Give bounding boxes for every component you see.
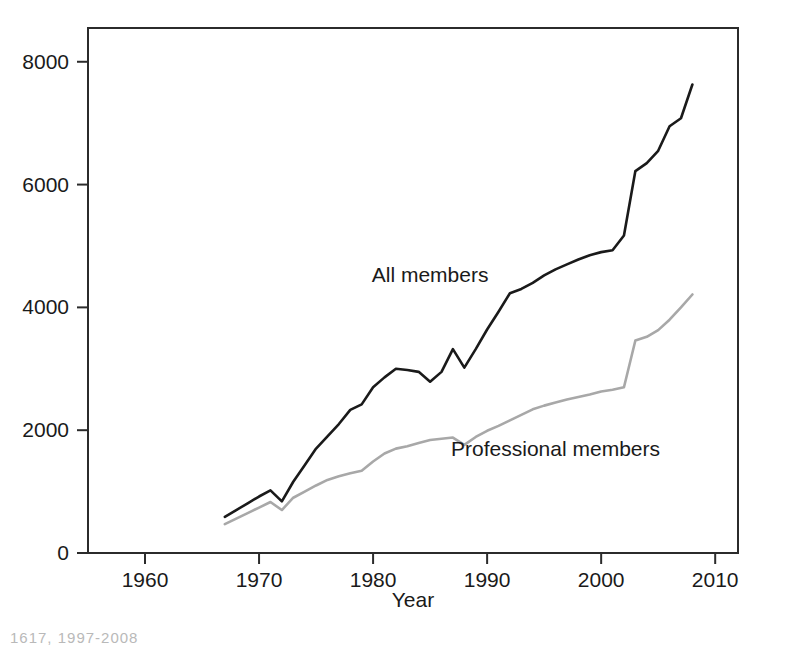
series-line xyxy=(225,294,693,524)
x-tick-label: 1970 xyxy=(236,568,283,591)
y-tick-label: 0 xyxy=(57,541,69,564)
x-tick-label: 2000 xyxy=(578,568,625,591)
x-tick-label: 1980 xyxy=(350,568,397,591)
x-axis: 196019701980199020002010 xyxy=(122,553,739,591)
x-axis-title: Year xyxy=(392,588,434,611)
y-tick-label: 8000 xyxy=(22,50,69,73)
figure-caption: 1617, 1997-2008 xyxy=(10,629,138,646)
y-axis: 02000400060008000 xyxy=(22,50,88,564)
x-tick-label: 2010 xyxy=(692,568,739,591)
y-tick-label: 2000 xyxy=(22,418,69,441)
x-tick-label: 1990 xyxy=(464,568,511,591)
plot-area-border xyxy=(88,28,738,553)
y-tick-label: 4000 xyxy=(22,295,69,318)
series-label: All members xyxy=(372,263,489,286)
series-label: Professional members xyxy=(451,437,660,460)
x-tick-label: 1960 xyxy=(122,568,169,591)
y-tick-label: 6000 xyxy=(22,173,69,196)
